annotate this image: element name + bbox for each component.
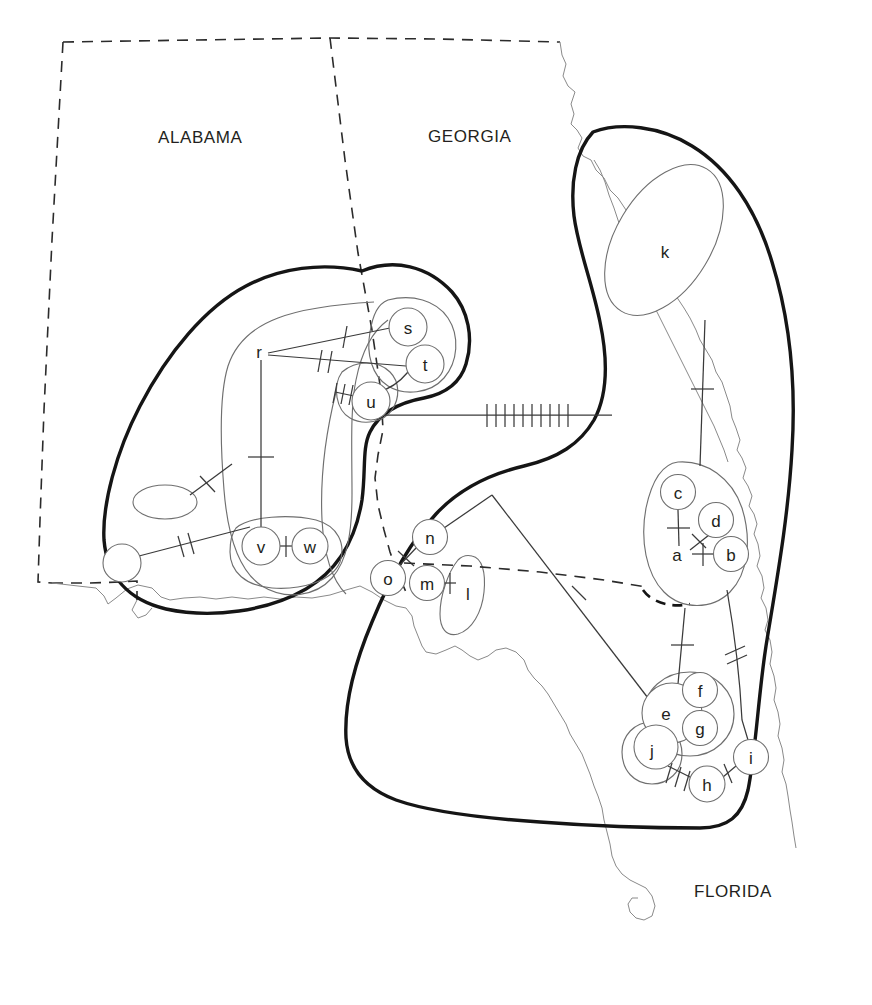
node-label-q: s	[404, 319, 413, 338]
state-label-alabama: ALABAMA	[158, 128, 243, 147]
state-label-florida: FLORIDA	[694, 882, 772, 901]
node-label-s: u	[366, 393, 375, 412]
node-label-g: g	[695, 720, 704, 739]
node-label-p: r	[256, 343, 262, 362]
node-circle-v[interactable]	[103, 544, 141, 582]
node-label-f: f	[698, 682, 703, 701]
node-label-a: a	[672, 546, 682, 565]
node-label-l: l	[466, 585, 470, 604]
node-label-o: o	[383, 570, 392, 589]
map-figure: r s t u v w k l n o m c d b a	[0, 0, 872, 1005]
node-label-b: b	[726, 546, 735, 565]
node-label-e: e	[661, 705, 670, 724]
node-label-n: n	[425, 529, 434, 548]
node-label-r: t	[423, 356, 428, 375]
state-label-georgia: GEORGIA	[428, 127, 512, 146]
background	[0, 0, 872, 1005]
map-canvas: r s t u v w k l n o m c d b a	[0, 0, 872, 1005]
node-label-d: d	[711, 512, 720, 531]
node-label-k: k	[661, 243, 670, 262]
node-label-t: v	[257, 538, 266, 557]
node-label-m: m	[420, 575, 434, 594]
node-label-i: i	[749, 749, 753, 768]
node-circle-j[interactable]	[634, 725, 678, 769]
node-label-h: h	[702, 776, 711, 795]
node-shape-w	[133, 485, 197, 519]
node-label-c: c	[674, 484, 683, 503]
node-label-j: j	[649, 742, 654, 761]
node-label-u: w	[303, 538, 317, 557]
